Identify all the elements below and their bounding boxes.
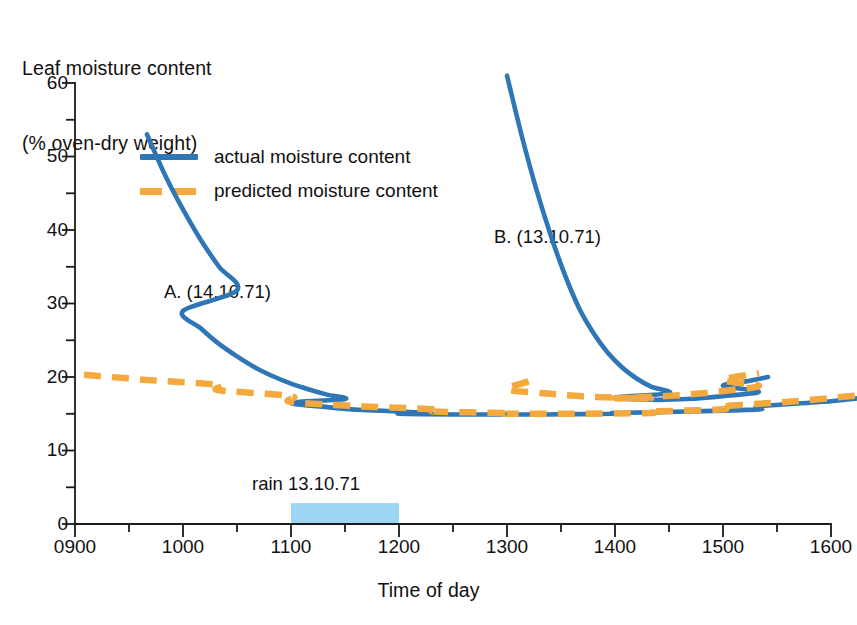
plot-area xyxy=(0,0,857,625)
chart-container: Leaf moisture content (% oven-dry weight… xyxy=(0,0,857,625)
actual-moisture-line xyxy=(507,76,768,400)
data-series xyxy=(84,76,857,415)
axis-ticks xyxy=(62,83,831,537)
chart-axes xyxy=(75,83,831,524)
actual-moisture-line xyxy=(147,134,857,414)
rain-band xyxy=(291,503,399,524)
